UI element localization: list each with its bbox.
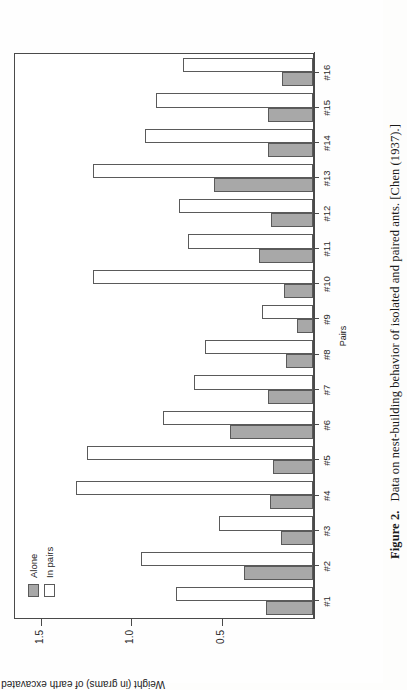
x-tick-label-p14: #14 xyxy=(321,135,332,151)
x-tick-label-p5: #5 xyxy=(321,455,332,466)
x-tick-label-p12: #12 xyxy=(321,206,332,222)
x-tick xyxy=(314,142,319,143)
x-tick-label-p3: #3 xyxy=(321,526,332,537)
x-tick xyxy=(314,459,319,460)
legend-swatch-alone xyxy=(28,584,39,597)
y-tick-label: 0.5 xyxy=(215,630,226,644)
legend: AloneIn pairs xyxy=(28,547,60,597)
x-tick xyxy=(314,283,319,284)
x-tick-label-p6: #6 xyxy=(321,420,332,431)
y-tick-label: 1.0 xyxy=(124,630,135,644)
y-axis xyxy=(14,618,315,619)
x-tick xyxy=(314,107,319,108)
figure-caption-text: Data on nest-building behavior of isolat… xyxy=(388,124,403,501)
bar-p16-in-pairs xyxy=(183,58,313,72)
x-tick-label-p16: #16 xyxy=(321,65,332,81)
x-tick xyxy=(314,177,319,178)
x-tick xyxy=(314,424,319,425)
bar-p16-alone xyxy=(282,72,313,86)
figure-number: Figure 2. xyxy=(388,510,403,559)
x-tick-label-p15: #15 xyxy=(321,100,332,116)
x-tick xyxy=(314,248,319,249)
y-tick-label: 1.5 xyxy=(34,630,45,644)
y-tick: 1.5 xyxy=(41,619,42,626)
figure-caption: Figure 2. Data on nest-building behavior… xyxy=(382,0,407,683)
x-tick xyxy=(314,530,319,531)
y-tick: 1.0 xyxy=(131,619,132,626)
x-tick-label-p1: #1 xyxy=(321,596,332,607)
bars-layer xyxy=(15,54,313,618)
y-axis-title: Weight (in grams) of earth excavated xyxy=(1,679,165,690)
x-tick-label-p4: #4 xyxy=(321,490,332,501)
legend-label-alone: Alone xyxy=(28,554,39,578)
x-tick-label-p7: #7 xyxy=(321,385,332,396)
x-tick-label-p11: #11 xyxy=(321,241,332,256)
legend-item-alone: Alone xyxy=(28,547,39,597)
x-tick xyxy=(314,318,319,319)
x-axis xyxy=(314,52,315,619)
x-tick-label-p10: #10 xyxy=(321,276,332,292)
y-tick: 0.5 xyxy=(222,619,223,626)
x-tick xyxy=(314,354,319,355)
x-tick xyxy=(314,213,319,214)
x-tick xyxy=(314,389,319,390)
x-tick-label-p8: #8 xyxy=(321,349,332,360)
bar-group xyxy=(15,54,313,618)
x-tick xyxy=(314,600,319,601)
legend-item-pairs: In pairs xyxy=(44,547,55,597)
legend-swatch-pairs xyxy=(44,584,55,597)
x-axis-title: Pairs xyxy=(338,53,348,619)
x-tick xyxy=(314,495,319,496)
x-tick xyxy=(314,72,319,73)
legend-label-pairs: In pairs xyxy=(44,547,55,578)
x-tick-label-p9: #9 xyxy=(321,314,332,325)
x-tick-label-p13: #13 xyxy=(321,170,332,186)
x-tick xyxy=(314,565,319,566)
x-tick-label-p2: #2 xyxy=(321,561,332,572)
